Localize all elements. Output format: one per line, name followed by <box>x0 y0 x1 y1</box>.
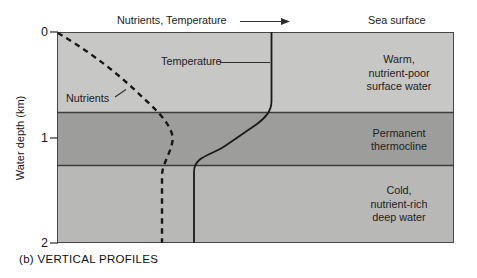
x-axis-title: Nutrients, Temperature <box>117 14 227 27</box>
layer-deep-label-line3: deep water <box>321 211 477 225</box>
temperature-curve-label: Temperature <box>161 55 222 68</box>
layer-thermocline-label-line2: thermocline <box>321 140 477 154</box>
layer-warm-label-line3: surface water <box>321 80 477 94</box>
sea-surface-label: Sea surface <box>368 14 426 27</box>
layer-thermocline-label-line1: Permanent <box>321 126 477 140</box>
right-arrow-icon <box>240 18 290 25</box>
layer-deep-label-line2: nutrient-rich <box>321 197 477 211</box>
y-tick-1: 1 <box>32 132 48 145</box>
figure-caption: (b) VERTICAL PROFILES <box>19 253 158 265</box>
layer-thermocline-label: Permanent thermocline <box>321 126 477 153</box>
nutrients-curve-label: Nutrients <box>66 92 109 105</box>
vertical-profiles-figure: Nutrients, Temperature Sea surface Warm,… <box>0 0 477 278</box>
layer-warm-label: Warm, nutrient-poor surface water <box>321 53 477 94</box>
y-tick-0: 0 <box>32 26 48 39</box>
layer-permanent-thermocline: Permanent thermocline <box>58 113 453 166</box>
layer-warm-label-line1: Warm, <box>321 53 477 67</box>
layer-deep-label: Cold, nutrient-rich deep water <box>321 184 477 225</box>
layer-deep-label-line1: Cold, <box>321 184 477 198</box>
y-axis-label: Water depth (km) <box>14 68 28 208</box>
layer-cold-deep-water: Cold, nutrient-rich deep water <box>58 166 453 242</box>
y-tick-2: 2 <box>32 237 48 250</box>
plot-area: Warm, nutrient-poor surface water Perman… <box>57 32 454 243</box>
layer-warm-surface-water: Warm, nutrient-poor surface water <box>58 33 453 113</box>
layer-warm-label-line2: nutrient-poor <box>321 66 477 80</box>
